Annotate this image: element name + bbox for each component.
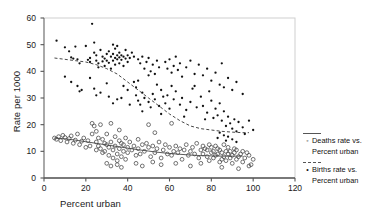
data-point	[136, 137, 140, 141]
data-point	[105, 132, 109, 136]
data-point	[137, 80, 139, 82]
data-point	[108, 50, 110, 52]
y-tick-label: 40	[20, 66, 36, 76]
data-point	[150, 70, 152, 72]
data-point	[170, 85, 172, 87]
data-point	[193, 73, 195, 75]
data-point	[76, 85, 78, 87]
data-point	[180, 157, 184, 161]
data-point	[124, 157, 128, 161]
data-point	[116, 58, 118, 60]
data-point	[189, 149, 193, 153]
data-point	[216, 114, 218, 116]
data-point	[219, 84, 221, 86]
data-point	[64, 76, 66, 78]
y-tick-label: 30	[20, 93, 36, 103]
data-point	[122, 85, 124, 87]
data-point	[170, 121, 174, 125]
data-point	[145, 61, 147, 63]
data-point	[252, 129, 254, 131]
data-point	[210, 100, 212, 102]
data-point	[99, 123, 103, 127]
data-point	[122, 149, 126, 153]
data-point	[233, 118, 235, 120]
data-point	[225, 125, 227, 127]
x-tick-label: 80	[201, 183, 221, 193]
data-point	[127, 89, 129, 91]
legend-label-line-2: Percent urban	[312, 147, 367, 158]
data-point	[160, 113, 162, 115]
data-point	[251, 157, 255, 161]
legend-entry[interactable]: ◦Deaths rate vs.Percent urban	[303, 131, 367, 157]
data-point	[78, 90, 80, 92]
data-point	[185, 66, 187, 68]
data-point	[93, 88, 95, 90]
data-point	[214, 72, 216, 74]
data-point	[122, 56, 124, 58]
data-point	[147, 57, 149, 59]
data-point	[101, 56, 103, 58]
data-point	[126, 151, 130, 155]
data-point	[111, 156, 115, 160]
x-tick-label: 0	[34, 183, 54, 193]
data-point	[183, 116, 185, 118]
series-deaths	[53, 121, 256, 170]
data-point	[120, 97, 122, 99]
data-point	[101, 60, 103, 62]
data-point	[179, 62, 181, 64]
data-point	[223, 110, 225, 112]
data-point	[105, 161, 109, 165]
data-point	[244, 133, 246, 135]
data-point	[94, 129, 98, 133]
data-point	[112, 44, 114, 46]
data-point	[109, 140, 113, 144]
data-point	[227, 116, 229, 118]
data-point	[222, 143, 226, 147]
data-point	[193, 85, 195, 87]
data-point	[219, 132, 221, 134]
data-point	[191, 88, 193, 90]
trend-line-births	[54, 58, 249, 133]
data-point	[243, 156, 247, 160]
data-point	[224, 159, 228, 163]
data-point	[72, 57, 74, 59]
data-point	[156, 60, 158, 62]
x-axis-label: Percent urban	[60, 198, 121, 209]
series-births	[55, 23, 254, 143]
data-point	[149, 155, 153, 159]
data-point	[114, 57, 116, 59]
data-point	[129, 57, 131, 59]
data-point	[118, 62, 120, 64]
data-point	[208, 90, 210, 92]
data-point	[199, 161, 203, 165]
x-tick-label: 120	[285, 183, 305, 193]
legend-entry[interactable]: •Births rate vs.Percent urban	[303, 160, 367, 186]
data-point	[69, 134, 73, 138]
data-point	[109, 164, 113, 168]
data-point	[137, 58, 139, 60]
filled-dot-marker-icon: •	[303, 165, 312, 174]
data-point	[170, 72, 172, 74]
legend-label: Births rate vs.Percent urban	[312, 165, 367, 186]
data-point	[81, 89, 83, 91]
data-point	[137, 100, 139, 102]
data-point	[141, 110, 143, 112]
data-point	[110, 56, 112, 58]
data-point	[175, 56, 177, 58]
data-point	[221, 62, 223, 64]
data-point	[91, 23, 93, 25]
data-point	[178, 147, 182, 151]
data-point	[95, 60, 97, 62]
data-point	[198, 64, 200, 66]
legend-label-line-2: Percent urban	[312, 176, 367, 187]
data-point	[134, 161, 138, 165]
data-point	[172, 149, 176, 153]
data-point	[93, 52, 95, 54]
data-point	[140, 164, 144, 168]
data-point	[97, 66, 99, 68]
data-point	[89, 57, 91, 59]
data-point	[231, 89, 233, 91]
data-point	[199, 148, 203, 152]
data-point	[93, 41, 95, 43]
chart-figure: Rate per 1000 Percent urban 010203040506…	[0, 0, 370, 221]
